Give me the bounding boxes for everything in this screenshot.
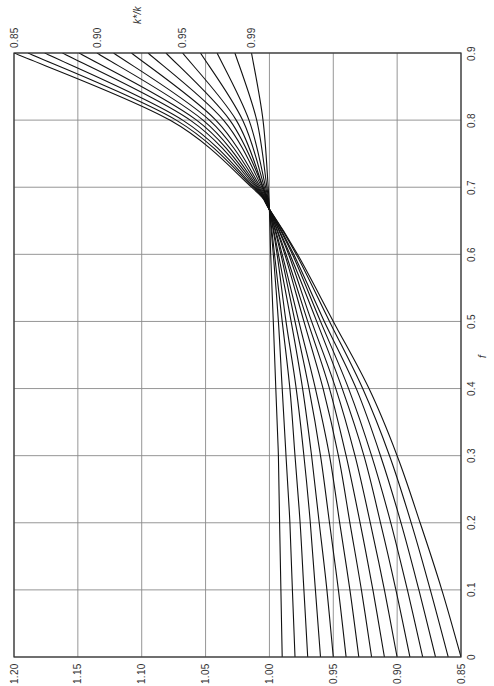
f-tick-label: 0.8 bbox=[466, 113, 477, 128]
plot-frame bbox=[14, 53, 461, 657]
value-tick-label: 0.90 bbox=[392, 663, 403, 684]
value-tick-label: 1.05 bbox=[200, 663, 211, 684]
kratio-tick-label: 0.95 bbox=[177, 27, 188, 48]
f-tick-label: 0.7 bbox=[466, 180, 477, 195]
f-tick-label: 0.5 bbox=[466, 314, 477, 329]
f-tick-label: 0.6 bbox=[466, 247, 477, 262]
chart-plot bbox=[0, 0, 494, 686]
f-tick-label: 0.3 bbox=[466, 448, 477, 463]
value-tick-label: 1.15 bbox=[72, 663, 83, 684]
value-tick-label: 0.85 bbox=[456, 663, 467, 684]
curve-0.93 bbox=[148, 53, 359, 657]
kratio-tick-label: 0.85 bbox=[9, 27, 20, 48]
curve-0.91 bbox=[114, 53, 385, 657]
f-tick-label: 0.1 bbox=[466, 583, 477, 598]
f-tick-label: 0.4 bbox=[466, 381, 477, 396]
curve-0.86 bbox=[28, 53, 448, 657]
f-tick-label: 0.9 bbox=[466, 46, 477, 61]
value-tick-label: 1.20 bbox=[9, 663, 20, 684]
kratio-tick-label: 0.99 bbox=[246, 27, 257, 48]
data-curves bbox=[14, 53, 461, 657]
kratio-axis-label: k*/k bbox=[132, 6, 143, 24]
f-tick-label: 0.2 bbox=[466, 515, 477, 530]
curve-0.85 bbox=[14, 53, 461, 657]
grid-lines bbox=[14, 53, 461, 657]
value-tick-label: 0.95 bbox=[328, 663, 339, 684]
f-axis-label: f bbox=[477, 354, 488, 357]
value-tick-label: 1.00 bbox=[264, 663, 275, 684]
value-tick-label: 1.10 bbox=[136, 663, 147, 684]
kratio-tick-label: 0.90 bbox=[92, 27, 103, 48]
f-tick-label: 0 bbox=[466, 654, 477, 660]
curve-0.89 bbox=[79, 53, 410, 657]
